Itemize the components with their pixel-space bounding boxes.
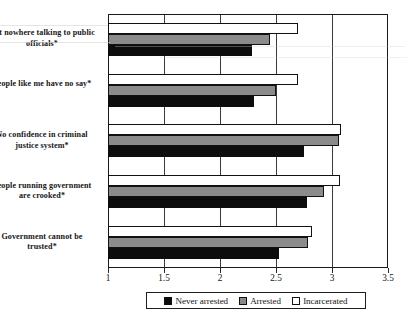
x-tick-label: 3	[317, 273, 347, 283]
category-group	[108, 166, 388, 217]
bar-arrested	[108, 237, 308, 248]
scan-artifact	[0, 25, 108, 26]
bar-arrested	[108, 135, 339, 146]
bar-incarcerated	[108, 124, 341, 135]
x-tick-label: 1	[93, 273, 123, 283]
bar-incarcerated	[108, 74, 298, 85]
x-tick-label: 2	[205, 273, 235, 283]
legend-item-never-arrested: Never arrested	[164, 296, 228, 306]
bar-never	[108, 197, 307, 208]
legend-item-arrested: Arrested	[239, 296, 281, 306]
bar-arrested	[108, 34, 270, 45]
x-tick-label: 3.5	[373, 273, 403, 283]
category-label: Get nowhere talking to public officials*	[0, 28, 96, 49]
category-group	[108, 116, 388, 167]
legend-swatch-incarcerated	[292, 297, 300, 305]
bar-incarcerated	[108, 226, 312, 237]
category-label: People running government are crooked*	[0, 181, 96, 202]
legend-item-incarcerated: Incarcerated	[292, 296, 347, 306]
category-label: Government cannot be trusted*	[0, 232, 96, 253]
bar-never	[108, 96, 254, 107]
bar-never	[108, 248, 279, 259]
legend-label-never-arrested: Never arrested	[175, 296, 228, 306]
legend-label-arrested: Arrested	[250, 296, 281, 306]
legend: Never arrested Arrested Incarcerated	[146, 292, 366, 309]
bar-arrested	[108, 85, 276, 96]
bar-never	[108, 146, 304, 157]
category-label: People like me have no say*	[0, 79, 96, 90]
bar-never	[108, 45, 252, 56]
category-group	[108, 65, 388, 116]
bar-incarcerated	[108, 23, 298, 34]
bar-incarcerated	[108, 175, 340, 186]
x-tick-label: 1.5	[149, 273, 179, 283]
legend-label-incarcerated: Incarcerated	[303, 296, 347, 306]
legend-swatch-arrested	[239, 297, 247, 305]
category-group	[108, 217, 388, 268]
legend-swatch-never-arrested	[164, 297, 172, 305]
category-group	[108, 14, 388, 65]
x-tick-label: 2.5	[261, 273, 291, 283]
category-label: No confidence in criminal justice system…	[0, 130, 96, 151]
bar-chart: Get nowhere talking to public officials*…	[0, 0, 407, 318]
bar-arrested	[108, 186, 324, 197]
